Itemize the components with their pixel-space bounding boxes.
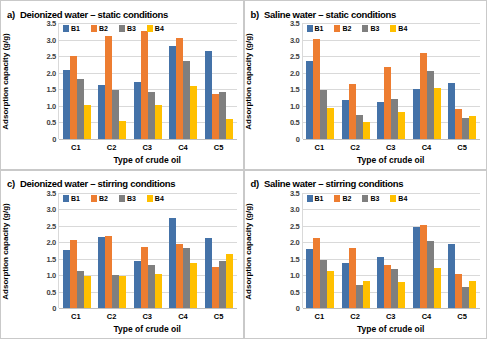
y-axis-label: Adsorption capacity (g/g) bbox=[244, 191, 255, 313]
bar-C4-B4 bbox=[190, 86, 197, 138]
bar-C5-B1 bbox=[448, 244, 455, 308]
y-axis-label-text: Adsorption capacity (g/g) bbox=[244, 34, 253, 130]
y-tick-label: 2.5 bbox=[46, 221, 56, 230]
plot-area: 00.51.01.52.02.53.03.5C1C2C3C4C5Type of … bbox=[281, 23, 481, 139]
y-axis-label: Adsorption capacity (g/g) bbox=[0, 21, 11, 143]
legend-item-B2: B2 bbox=[91, 25, 108, 32]
legend-label: B3 bbox=[127, 25, 136, 32]
legend: B1B2B3B4 bbox=[307, 25, 408, 32]
panel-header: c)Deionized water – stirring conditions bbox=[7, 177, 239, 191]
y-tick-label: 0.5 bbox=[290, 287, 300, 296]
y-tick-label: 0 bbox=[296, 304, 300, 313]
bar-C4-B2 bbox=[176, 38, 183, 139]
bar-C3-B4 bbox=[398, 282, 405, 308]
y-axis-label-text: Adsorption capacity (g/g) bbox=[1, 203, 10, 299]
bar-C5-B1 bbox=[448, 83, 455, 138]
bar-group-C1 bbox=[59, 23, 95, 139]
bar-C5-B4 bbox=[226, 254, 233, 308]
y-tick-label: 2.0 bbox=[46, 238, 56, 247]
legend-swatch-icon bbox=[390, 195, 396, 202]
y-tick-label: 3.0 bbox=[290, 35, 300, 44]
x-tick-label: C5 bbox=[201, 143, 237, 152]
panel-header: a)Deionized water – static conditions bbox=[7, 7, 239, 21]
bar-group-C4 bbox=[166, 193, 202, 309]
y-axis-label-text: Adsorption capacity (g/g) bbox=[244, 203, 253, 299]
panel-title: Deionized water – static conditions bbox=[20, 9, 168, 20]
legend-item-B4: B4 bbox=[147, 25, 164, 32]
legend-label: B4 bbox=[155, 25, 164, 32]
gridline bbox=[59, 139, 237, 140]
bar-C2-B2 bbox=[105, 36, 112, 139]
bar-C1-B1 bbox=[63, 70, 70, 139]
bar-C2-B4 bbox=[363, 122, 370, 139]
bar-C2-B1 bbox=[98, 85, 105, 139]
y-tick-label: 0 bbox=[52, 134, 56, 143]
bar-group-C4 bbox=[409, 193, 445, 309]
bar-C1-B2 bbox=[70, 56, 77, 138]
bar-C1-B2 bbox=[70, 240, 77, 308]
bar-C1-B3 bbox=[320, 90, 327, 138]
bar-group-C5 bbox=[201, 193, 237, 309]
y-tick-label: 2.0 bbox=[290, 68, 300, 77]
y-tick-label: 1.0 bbox=[290, 271, 300, 280]
bar-C2-B4 bbox=[119, 121, 126, 138]
x-axis-label: Type of crude oil bbox=[58, 324, 237, 334]
bar-C5-B2 bbox=[212, 94, 219, 138]
bar-C3-B1 bbox=[134, 261, 141, 308]
bars-container bbox=[59, 193, 237, 309]
legend-item-B4: B4 bbox=[390, 195, 407, 202]
x-tick-label: C4 bbox=[409, 143, 445, 152]
legend-item-B3: B3 bbox=[362, 195, 379, 202]
legend-swatch-icon bbox=[307, 195, 313, 202]
legend-swatch-icon bbox=[307, 25, 313, 32]
x-tick-label: C5 bbox=[201, 312, 237, 321]
bar-C1-B2 bbox=[313, 39, 320, 139]
bar-C1-B4 bbox=[327, 271, 334, 308]
bar-C3-B3 bbox=[391, 99, 398, 138]
bar-C2-B3 bbox=[356, 115, 363, 139]
legend-swatch-icon bbox=[91, 25, 97, 32]
bar-C3-B4 bbox=[155, 274, 162, 308]
legend-label: B1 bbox=[315, 25, 324, 32]
legend-label: B2 bbox=[99, 195, 108, 202]
y-tick-label: 2.0 bbox=[46, 68, 56, 77]
x-tick-label: C2 bbox=[94, 312, 130, 321]
legend-label: B1 bbox=[71, 25, 80, 32]
x-axis-label: Type of crude oil bbox=[302, 155, 481, 165]
gridline bbox=[303, 308, 481, 309]
legend-swatch-icon bbox=[119, 25, 125, 32]
y-tick-label: 1.0 bbox=[290, 101, 300, 110]
bar-C1-B1 bbox=[306, 61, 313, 139]
panel-letter: c) bbox=[7, 178, 15, 189]
bar-C3-B2 bbox=[141, 31, 148, 139]
bar-group-C3 bbox=[130, 23, 166, 139]
y-tick-label: 0 bbox=[52, 304, 56, 313]
x-tick-label: C4 bbox=[165, 312, 201, 321]
bar-group-C2 bbox=[95, 193, 131, 309]
x-tick-label: C1 bbox=[58, 143, 94, 152]
legend-swatch-icon bbox=[362, 25, 368, 32]
bar-C3-B3 bbox=[148, 265, 155, 308]
y-axis-ticks: 00.51.01.52.02.53.03.5 bbox=[37, 193, 57, 309]
y-tick-label: 3.0 bbox=[46, 205, 56, 214]
bar-C3-B1 bbox=[377, 257, 384, 308]
x-axis-label: Type of crude oil bbox=[58, 155, 237, 165]
x-tick-label: C3 bbox=[373, 312, 409, 321]
bar-C4-B3 bbox=[183, 61, 190, 138]
panel-letter: a) bbox=[7, 9, 15, 20]
legend-item-B1: B1 bbox=[307, 195, 324, 202]
bar-group-C2 bbox=[95, 23, 131, 139]
bar-C4-B2 bbox=[420, 53, 427, 139]
bar-C4-B2 bbox=[420, 225, 427, 308]
bar-C3-B1 bbox=[377, 102, 384, 139]
legend-item-B3: B3 bbox=[119, 25, 136, 32]
legend-item-B4: B4 bbox=[390, 25, 407, 32]
bar-C5-B3 bbox=[462, 118, 469, 139]
bar-C4-B3 bbox=[427, 71, 434, 139]
legend-swatch-icon bbox=[63, 195, 69, 202]
y-axis-ticks: 00.51.01.52.02.53.03.5 bbox=[281, 193, 301, 309]
bar-C4-B1 bbox=[169, 218, 176, 308]
bar-C1-B3 bbox=[77, 79, 84, 138]
y-tick-label: 1.5 bbox=[290, 85, 300, 94]
legend-swatch-icon bbox=[334, 195, 340, 202]
